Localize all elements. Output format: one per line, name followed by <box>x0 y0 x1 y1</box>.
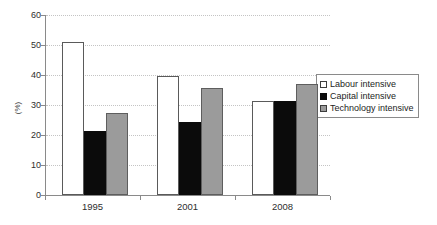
bar-labour-2001 <box>157 76 179 195</box>
y-axis-tick-labels: 6050403020100 <box>13 0 41 225</box>
gridline <box>46 15 330 16</box>
bar-technology-1995 <box>106 113 128 196</box>
y-axis-tickmark <box>41 165 45 166</box>
gridline <box>46 75 330 76</box>
bar-chart: (%) 6050403020100 199520012008 Labour in… <box>0 0 437 225</box>
legend-item: Labour intensive <box>320 78 414 90</box>
x-axis-tickmark <box>45 196 46 200</box>
y-axis-tick-label: 60 <box>15 11 41 20</box>
legend-swatch-technology <box>320 105 327 112</box>
gridline <box>46 45 330 46</box>
y-axis-tick-label: 40 <box>15 71 41 80</box>
y-axis-tick-label: 0 <box>15 191 41 200</box>
y-axis-tickmark <box>41 75 45 76</box>
chart-legend: Labour intensiveCapital intensiveTechnol… <box>316 74 419 118</box>
bar-capital-1995 <box>84 131 106 196</box>
x-axis-category-label: 2001 <box>177 201 198 212</box>
legend-label: Technology intensive <box>330 104 414 113</box>
y-axis-tickmark <box>41 105 45 106</box>
y-axis-tickmark <box>41 135 45 136</box>
y-axis-tickmark <box>41 195 45 196</box>
legend-label: Capital intensive <box>330 92 396 101</box>
y-axis-tickmark <box>41 15 45 16</box>
y-axis-tickmark <box>41 45 45 46</box>
x-axis-tickmark <box>235 196 236 200</box>
x-axis-tickmark <box>140 196 141 200</box>
legend-item: Technology intensive <box>320 102 414 114</box>
legend-swatch-labour <box>320 81 327 88</box>
bar-technology-2001 <box>201 88 223 195</box>
plot-area <box>45 15 330 196</box>
y-axis-tick-label: 10 <box>15 161 41 170</box>
x-axis-line <box>45 195 330 196</box>
legend-item: Capital intensive <box>320 90 414 102</box>
y-axis-tick-label: 20 <box>15 131 41 140</box>
x-axis-tickmark <box>330 196 331 200</box>
x-axis-category-label: 1995 <box>82 201 103 212</box>
bar-labour-1995 <box>62 42 84 195</box>
bar-capital-2001 <box>179 122 201 196</box>
bar-capital-2008 <box>274 101 296 196</box>
bar-labour-2008 <box>252 101 274 195</box>
x-axis-category-label: 2008 <box>272 201 293 212</box>
bar-technology-2008 <box>296 84 318 195</box>
legend-label: Labour intensive <box>330 80 396 89</box>
legend-swatch-capital <box>320 93 327 100</box>
y-axis-tick-label: 50 <box>15 41 41 50</box>
y-axis-tick-label: 30 <box>15 101 41 110</box>
